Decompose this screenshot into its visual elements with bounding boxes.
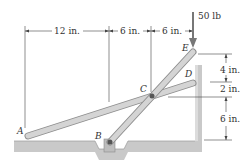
bar-AD [28,83,193,136]
pin-C [150,94,155,99]
point-label-E: E [181,43,189,53]
dim-label-6in-bc: 6 in. [120,26,140,36]
point-label-A: A [16,126,24,136]
point-label-B: B [94,131,102,141]
pin-B [108,140,113,145]
dim-label-6in-vert: 6 in. [220,114,240,124]
dim-label-12in: 12 in. [54,26,80,36]
dim-label-6in-ce: 6 in. [162,26,182,36]
dim-label-2in: 2 in. [220,84,240,94]
point-label-C: C [140,84,147,94]
point-label-D: D [184,69,192,79]
load-label: 50 lb [198,11,221,21]
dim-label-4in: 4 in. [220,65,240,75]
mechanics-diagram: 12 in. 6 in. 6 in. 4 in. 2 in. 6 in. 50 … [0,0,246,164]
